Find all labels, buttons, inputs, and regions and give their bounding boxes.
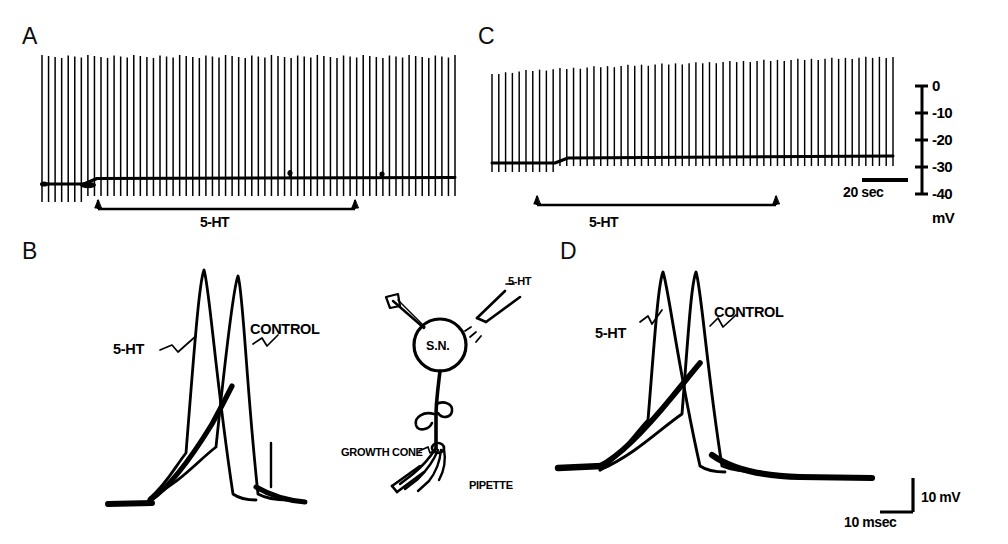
panel-d-voltage-scale-label: 10 mV: [921, 490, 960, 504]
panel-d-time-scale-label: 10 msec: [844, 515, 896, 529]
figure-canvas: A 5-HT B 5-HT CONTROL S.N. 5-HT GROWTH C…: [0, 0, 1008, 544]
panel-d-scale-bar: [0, 0, 1008, 544]
